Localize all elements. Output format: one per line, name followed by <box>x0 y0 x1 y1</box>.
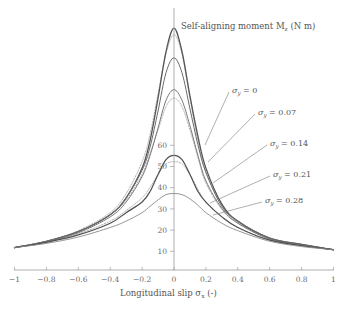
curve-label: σy = 0.14 <box>270 139 308 150</box>
x-ticks: −1−0.8−0.6−0.4−0.200.20.40.60.81 <box>9 267 336 284</box>
x-tick-label: −0.2 <box>133 275 151 284</box>
x-tick-label: −0.4 <box>101 275 119 284</box>
annotation-leader-line <box>210 176 270 203</box>
y-tick-label: 10 <box>157 247 167 256</box>
x-tick-label: 0.6 <box>264 275 276 284</box>
curve-label: σy = 0.07 <box>258 108 296 119</box>
x-tick-label: −0.6 <box>69 275 87 284</box>
y-tick-label: 40 <box>157 183 167 192</box>
annotation-leader-line <box>213 145 267 183</box>
x-axis-title: Longitudinal slip σx (-) <box>120 288 217 299</box>
x-tick-label: 0 <box>172 275 177 284</box>
y-tick-label: 20 <box>157 226 167 235</box>
curve-annotations: σy = 0σy = 0.07σy = 0.14σy = 0.21σy = 0.… <box>205 86 311 215</box>
annotation-leader-line <box>208 114 255 162</box>
y-tick-label: 50 <box>157 162 167 171</box>
x-tick-label: −1 <box>9 275 20 284</box>
curve-label: σy = 0.28 <box>265 196 303 207</box>
x-tick-label: 0.2 <box>200 275 212 284</box>
chart: −1−0.8−0.6−0.4−0.200.20.40.60.81 1020304… <box>0 0 347 317</box>
curve-label: σy = 0 <box>232 86 257 97</box>
y-tick-label: 30 <box>157 205 167 214</box>
x-tick-label: 0.4 <box>232 275 244 284</box>
x-tick-label: 0.8 <box>296 275 308 284</box>
curve-label: σy = 0.21 <box>273 170 311 181</box>
y-tick-label: 60 <box>157 141 167 150</box>
y-axis-title: Self-aligning moment Mz (N m) <box>181 21 315 32</box>
x-tick-label: −0.8 <box>37 275 55 284</box>
x-tick-label: 1 <box>331 275 336 284</box>
annotation-leader-line <box>205 92 229 145</box>
